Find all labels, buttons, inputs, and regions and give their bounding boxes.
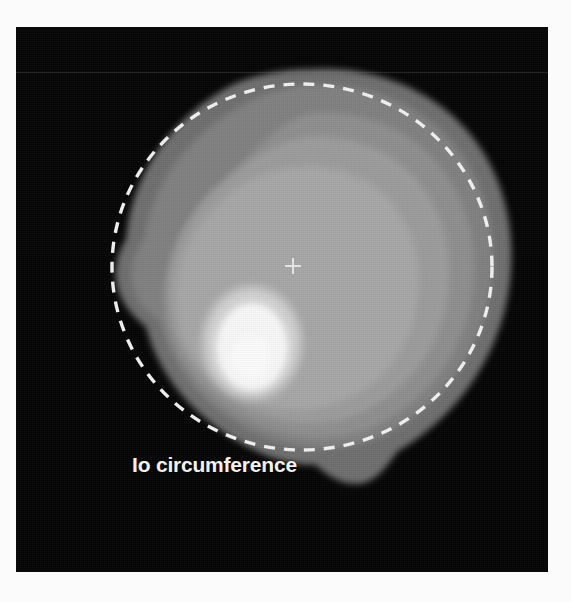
image-plate: Io circumference [16,27,548,572]
hotspot-peak [231,335,271,379]
figure-root: Io circumference [0,0,571,602]
io-circumference-label: Io circumference [132,453,297,477]
contour-map-svg [16,27,548,572]
